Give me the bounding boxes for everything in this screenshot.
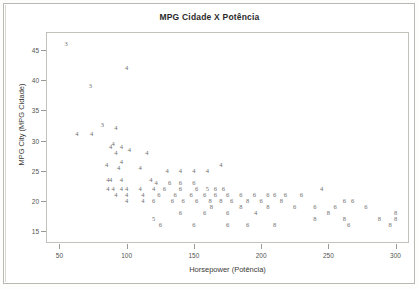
data-point-6: 6 [157,192,160,199]
data-point-6: 6 [171,198,174,205]
y-tick-mark [41,201,46,202]
data-point-4: 4 [145,149,148,156]
y-tick-label: 45 [32,47,39,54]
data-point-6: 6 [152,198,155,205]
data-point-6: 6 [214,192,217,199]
data-point-8: 8 [389,222,392,229]
data-point-4: 4 [192,167,195,174]
data-point-8: 8 [239,204,242,211]
data-point-6: 6 [195,185,198,192]
data-point-4: 4 [106,185,109,192]
data-point-6: 6 [300,192,303,199]
data-point-6: 6 [168,179,171,186]
data-point-4: 4 [320,185,323,192]
data-point-6: 6 [230,198,233,205]
data-point-6: 6 [190,192,193,199]
data-point-8: 8 [313,216,316,223]
data-point-4: 4 [125,198,128,205]
data-point-4: 4 [165,167,168,174]
data-point-4: 4 [125,65,128,72]
y-tick-label: 15 [32,227,39,234]
x-tick-mark [396,244,397,249]
data-point-4: 4 [149,176,152,183]
data-point-6: 6 [159,222,162,229]
y-tick-mark [41,50,46,51]
data-point-8: 8 [273,222,276,229]
data-point-6: 6 [347,222,350,229]
data-point-6: 6 [203,192,206,199]
y-tick-label: 40 [32,77,39,84]
data-point-8: 8 [343,216,346,223]
data-point-4: 4 [120,185,123,192]
data-point-6: 6 [333,204,336,211]
scatter-plot-area: 3433444444444444444444444446664444446665… [46,32,409,243]
x-tick-label: 300 [390,252,401,259]
data-point-6: 6 [266,192,269,199]
data-point-4: 4 [179,167,182,174]
data-point-3: 3 [65,41,68,48]
data-point-6: 6 [239,192,242,199]
data-point-6: 6 [284,192,287,199]
data-point-4: 4 [114,149,117,156]
data-point-8: 8 [327,210,330,217]
data-point-8: 8 [246,198,249,205]
data-point-6: 6 [163,185,166,192]
y-tick-mark [41,171,46,172]
data-point-6: 6 [351,198,354,205]
x-tick-label: 150 [188,252,199,259]
data-point-4: 4 [109,143,112,150]
data-point-8: 8 [219,198,222,205]
data-point-6: 6 [246,222,249,229]
data-point-4: 4 [141,198,144,205]
data-point-6: 6 [293,204,296,211]
x-tick-label: 250 [323,252,334,259]
data-point-4: 4 [206,167,209,174]
y-axis-tick-labels: 15202530354045 [14,32,39,243]
data-point-8: 8 [378,216,381,223]
x-axis-title: Horsepower (Potência) [46,265,409,274]
data-point-6: 6 [226,222,229,229]
y-tick-label: 25 [32,167,39,174]
data-point-4: 4 [90,131,93,138]
x-tick-mark [261,244,262,249]
data-point-4: 4 [75,131,78,138]
data-point-6: 6 [226,192,229,199]
x-tick-label: 200 [256,252,267,259]
y-tick-label: 35 [32,107,39,114]
y-tick-label: 30 [32,137,39,144]
y-tick-mark [41,141,46,142]
x-tick-mark [194,244,195,249]
data-point-4: 4 [128,146,131,153]
data-point-6: 6 [226,210,229,217]
data-point-6: 6 [259,198,262,205]
data-point-5: 5 [152,216,155,223]
y-tick-mark [41,80,46,81]
x-tick-label: 100 [121,252,132,259]
data-point-6: 6 [364,204,367,211]
data-point-8: 8 [280,198,283,205]
chart-title: MPG Cidade X Potência [0,12,419,22]
data-point-6: 6 [273,192,276,199]
data-point-6: 6 [203,210,206,217]
data-point-8: 8 [210,204,213,211]
figure-container: MPG Cidade X Potência MPG City (MPG Cida… [0,0,419,289]
data-point-4: 4 [109,176,112,183]
data-point-6: 6 [192,222,195,229]
data-point-4: 4 [254,210,257,217]
data-point-8: 8 [266,204,269,211]
data-point-4: 4 [138,164,141,171]
data-point-4: 4 [219,161,222,168]
data-point-6: 6 [179,210,182,217]
data-point-4: 4 [114,192,117,199]
x-tick-mark [328,244,329,249]
x-tick-mark [59,244,60,249]
data-point-4: 4 [152,185,155,192]
data-point-8: 8 [394,216,397,223]
data-point-4: 4 [105,161,108,168]
data-point-6: 6 [253,192,256,199]
data-point-3: 3 [89,83,92,90]
x-tick-mark [127,244,128,249]
x-axis-tick-labels: 50100150200250300 [46,252,409,264]
data-point-6: 6 [195,198,198,205]
y-tick-label: 20 [32,197,39,204]
